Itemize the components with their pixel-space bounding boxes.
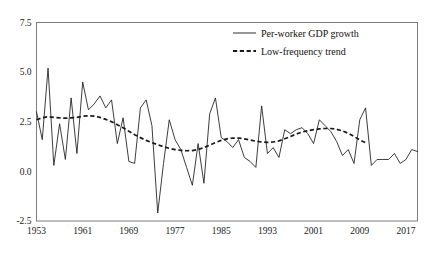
x-axis-tick-labels: 195319611969197719851993200120092017 bbox=[27, 226, 416, 236]
x-tick-label: 2001 bbox=[304, 226, 323, 236]
y-tick-label: 5.0 bbox=[20, 67, 32, 77]
x-tick-label: 2009 bbox=[350, 226, 369, 236]
x-tick-label: 1977 bbox=[166, 226, 185, 236]
y-tick-label: 0.0 bbox=[20, 167, 32, 177]
gdp-growth-line-chart: 7.55.02.50.0-2.5 19531961196919771985199… bbox=[0, 0, 433, 259]
x-tick-label: 1985 bbox=[212, 226, 231, 236]
legend-label-low-frequency-trend: Low-frequency trend bbox=[261, 46, 346, 57]
x-tick-label: 2017 bbox=[396, 226, 415, 236]
x-tick-label: 1969 bbox=[119, 226, 138, 236]
legend-label-per-worker-gdp-growth: Per-worker GDP growth bbox=[261, 28, 359, 39]
x-tick-label: 1993 bbox=[258, 226, 277, 236]
x-tick-label: 1953 bbox=[27, 226, 46, 236]
y-tick-label: 2.5 bbox=[20, 117, 32, 127]
x-tick-label: 1961 bbox=[73, 226, 92, 236]
y-tick-label: 7.5 bbox=[20, 18, 32, 28]
chart-container: 7.55.02.50.0-2.5 19531961196919771985199… bbox=[0, 0, 433, 259]
